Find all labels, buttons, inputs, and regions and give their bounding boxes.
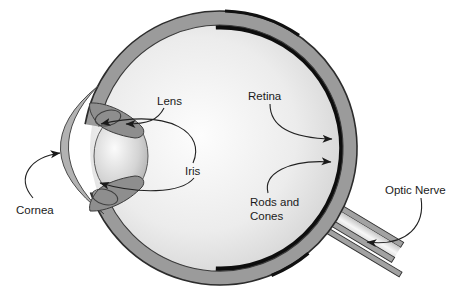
label-retina: Retina	[248, 90, 282, 102]
eye-diagram: Lens Retina Iris Cornea Rods and Cones O…	[0, 0, 455, 300]
label-rods-and-cones-line2: Cones	[250, 210, 283, 222]
cornea-arrow	[25, 153, 60, 198]
label-cornea: Cornea	[16, 204, 54, 216]
eye-diagram-canvas: Lens Retina Iris Cornea Rods and Cones O…	[0, 0, 455, 300]
label-lens: Lens	[157, 95, 182, 107]
label-iris: Iris	[185, 165, 201, 177]
label-optic-nerve: Optic Nerve	[385, 184, 446, 196]
label-rods-and-cones-line1: Rods and	[250, 196, 299, 208]
